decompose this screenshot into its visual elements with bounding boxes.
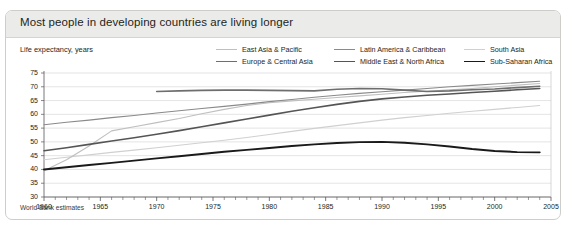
x-axis-tick-label: 1960 — [29, 203, 59, 210]
x-axis-tick-label: 1985 — [311, 203, 341, 210]
y-axis-tick-label: 55 — [20, 124, 38, 131]
y-axis-tick-label: 70 — [20, 83, 38, 90]
y-axis-tick-label: 30 — [20, 193, 38, 200]
x-axis-tick-label: 1990 — [367, 203, 397, 210]
y-axis-tick-label: 45 — [20, 152, 38, 159]
y-axis-tick-label: 50 — [20, 138, 38, 145]
x-axis-tick-label: 2005 — [536, 203, 561, 210]
y-axis-tick-label: 60 — [20, 110, 38, 117]
x-axis-tick-label: 1965 — [85, 203, 115, 210]
chart-plot-area — [6, 11, 561, 220]
x-axis-tick-label: 2000 — [480, 203, 510, 210]
series-line-south-asia — [44, 106, 540, 160]
chart-card: Most people in developing countries are … — [5, 10, 561, 220]
series-line-east-asia-pacific — [44, 83, 540, 170]
series-line-middle-east-north-africa — [44, 88, 540, 150]
y-axis-tick-label: 75 — [20, 69, 38, 76]
series-line-latin-america-caribbean — [44, 81, 540, 125]
y-axis-tick-label: 65 — [20, 97, 38, 104]
x-axis-tick-label: 1980 — [254, 203, 284, 210]
x-axis-tick-label: 1995 — [423, 203, 453, 210]
y-axis-tick-label: 35 — [20, 179, 38, 186]
y-axis-tick-label: 40 — [20, 165, 38, 172]
x-axis-tick-label: 1970 — [142, 203, 172, 210]
x-axis-tick-label: 1975 — [198, 203, 228, 210]
